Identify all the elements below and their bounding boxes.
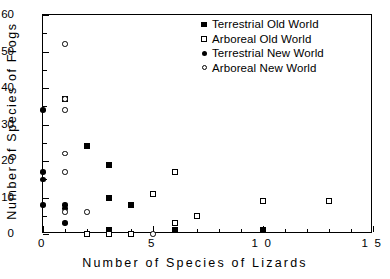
data-point — [84, 231, 90, 237]
data-point — [260, 227, 266, 233]
legend: Terrestrial Old WorldArboreal Old WorldT… — [196, 17, 324, 75]
data-point — [326, 198, 332, 204]
marker-glyph-sq-open — [201, 36, 207, 42]
data-point — [40, 202, 46, 208]
y-tick-label: 20 — [1, 154, 14, 166]
x-tick-major — [373, 226, 374, 232]
x-tick-label: 1 5 — [362, 237, 383, 249]
marker-glyph-sq-filled — [201, 22, 207, 28]
data-point — [62, 107, 68, 113]
data-point — [150, 231, 156, 237]
marker-glyph-ci-filled — [202, 51, 207, 56]
y-tick-label: 10 — [1, 191, 14, 203]
data-point — [40, 169, 46, 175]
legend-item: Terrestrial Old World — [196, 17, 324, 32]
data-point — [172, 169, 178, 175]
data-point — [260, 198, 266, 204]
x-axis-title: Number of Species of Lizards — [0, 256, 390, 270]
data-point — [84, 143, 90, 149]
legend-item: Terrestrial New World — [196, 46, 324, 61]
x-tick-label: 0 — [38, 237, 46, 249]
legend-label: Arboreal New World — [212, 62, 317, 74]
y-tick-major — [43, 234, 49, 235]
data-point — [128, 231, 134, 237]
legend-label: Terrestrial Old World — [212, 18, 319, 30]
data-point — [62, 220, 68, 226]
legend-marker-icon — [196, 36, 212, 42]
data-point — [172, 220, 178, 226]
legend-marker-icon — [196, 65, 212, 70]
legend-marker-icon — [196, 51, 212, 56]
data-point — [62, 209, 68, 215]
data-point — [62, 41, 68, 47]
data-point — [62, 96, 68, 102]
legend-item: Arboreal New World — [196, 61, 324, 76]
y-tick-label: 40 — [1, 81, 14, 93]
data-point — [150, 191, 156, 197]
data-point — [128, 202, 134, 208]
marker-glyph-ci-open — [202, 65, 207, 70]
data-point — [84, 209, 90, 215]
data-point — [106, 231, 112, 237]
y-tick-label: 60 — [1, 8, 14, 20]
data-point — [172, 227, 178, 233]
data-point — [40, 107, 46, 113]
scatter-plot-figure: Number of Species of Frogs Number of Spe… — [0, 0, 390, 279]
legend-item: Arboreal Old World — [196, 32, 324, 47]
data-point — [106, 162, 112, 168]
data-point — [194, 213, 200, 219]
legend-label: Terrestrial New World — [212, 47, 324, 59]
y-tick-label: 0 — [8, 227, 14, 239]
y-tick-label: 30 — [1, 118, 14, 130]
data-point — [40, 177, 46, 183]
data-point — [106, 195, 112, 201]
y-tick-label: 50 — [1, 45, 14, 57]
legend-marker-icon — [196, 22, 212, 28]
x-tick-label: 5 — [148, 237, 156, 249]
data-point — [62, 151, 68, 157]
data-point — [62, 169, 68, 175]
x-tick-label: 1 0 — [252, 237, 273, 249]
legend-label: Arboreal Old World — [212, 33, 311, 45]
